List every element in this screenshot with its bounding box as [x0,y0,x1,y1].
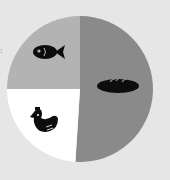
pie-chart [0,0,170,180]
